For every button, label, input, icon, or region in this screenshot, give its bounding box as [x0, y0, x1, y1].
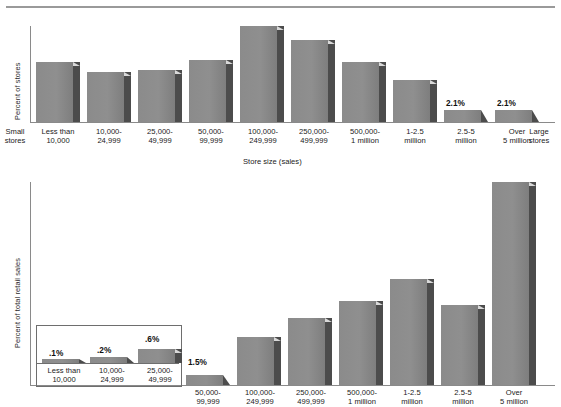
header-rule — [6, 6, 555, 8]
bar-front-face — [342, 62, 379, 122]
bar-front-face — [390, 279, 427, 385]
top-chart-left-endcap: Small stores — [0, 127, 30, 146]
bottom-bar-value: .6% — [145, 334, 159, 344]
bar-top-bevel — [529, 182, 536, 186]
bottom-chart-category-label: 250,000- 499,999 — [285, 388, 337, 407]
bottom-chart-y-axis — [30, 182, 31, 385]
top-bar[interactable] — [189, 56, 233, 122]
bar-front-face — [492, 182, 529, 385]
top-bar[interactable] — [393, 76, 437, 122]
top-bar[interactable] — [138, 66, 182, 122]
bar-front-face — [138, 70, 175, 122]
bottom-bar[interactable] — [90, 357, 134, 363]
bottom-bar[interactable] — [237, 333, 281, 385]
bottom-bar[interactable] — [441, 301, 485, 385]
bar-front-face — [90, 357, 127, 363]
bar-front-face — [237, 337, 274, 385]
bottom-bar[interactable] — [138, 345, 182, 363]
bar-top-bevel — [73, 62, 80, 66]
bar-top-bevel — [124, 72, 131, 76]
top-chart-x-axis-title: Store size (sales) — [243, 157, 302, 166]
bottom-bar[interactable] — [390, 275, 434, 385]
top-chart-category-label: 2.5-5 million — [441, 127, 491, 146]
bottom-bar-value: .1% — [49, 348, 63, 358]
top-chart-category-label: 100,000- 249,999 — [237, 127, 289, 146]
bottom-bar-value: .2% — [97, 345, 111, 355]
bar-top-bevel — [328, 40, 335, 44]
top-chart-y-axis-label: Percent of stores — [13, 62, 22, 120]
top-bar[interactable] — [291, 36, 335, 122]
bar-front-face — [288, 318, 325, 385]
top-bar[interactable] — [342, 58, 386, 122]
bottom-bar[interactable] — [288, 314, 332, 385]
top-chart-category-label: 500,000- 1 million — [339, 127, 391, 146]
top-chart-category-label: 50,000- 99,999 — [186, 127, 236, 146]
bar-front-face — [186, 375, 223, 385]
bar-top-bevel — [376, 301, 383, 305]
bar-top-bevel — [277, 26, 284, 30]
top-bar-value: 2.1% — [446, 98, 465, 108]
bar-front-face — [138, 349, 175, 363]
bottom-chart-category-label: 1-2.5 million — [387, 388, 437, 407]
top-chart-category-label: 25,000- 49,999 — [135, 127, 185, 146]
bar-front-face — [441, 305, 478, 385]
bar-side-face — [379, 62, 386, 122]
bar-top-bevel — [223, 375, 230, 385]
bar-side-face — [274, 337, 281, 385]
bottom-bar[interactable] — [492, 178, 536, 385]
bottom-chart-category-label: 50,000- 99,999 — [183, 388, 233, 407]
bar-front-face — [393, 80, 430, 122]
bottom-chart-category-label: 2.5-5 million — [438, 388, 488, 407]
bar-side-face — [175, 70, 182, 122]
top-chart-category-label: Less than 10,000 — [33, 127, 83, 146]
top-chart-category-label: 250,000- 499,999 — [288, 127, 340, 146]
bar-front-face — [189, 60, 226, 122]
bottom-chart-category-label: Less than 10,000 — [39, 366, 89, 385]
top-bar[interactable] — [495, 110, 539, 122]
top-chart-category-label: Over 5 million — [492, 127, 542, 146]
bottom-chart-category-label: Over 5 million — [489, 388, 539, 407]
bar-side-face — [73, 62, 80, 122]
bar-front-face — [495, 110, 532, 122]
bottom-chart-category-label: 25,000- 49,999 — [135, 366, 185, 385]
bottom-chart-y-axis-label: Percent of total retail sales — [13, 258, 22, 348]
bar-front-face — [36, 62, 73, 122]
bar-front-face — [240, 26, 277, 122]
bottom-bar[interactable] — [339, 297, 383, 385]
bar-top-bevel — [430, 80, 437, 84]
bar-side-face — [124, 72, 131, 122]
bar-front-face — [42, 359, 79, 363]
top-bar[interactable] — [36, 58, 80, 122]
bottom-chart-category-label: 100,000- 249,999 — [234, 388, 286, 407]
bottom-bar[interactable] — [186, 375, 230, 385]
bar-top-bevel — [175, 70, 182, 74]
top-chart-category-label: 10,000- 24,999 — [84, 127, 134, 146]
bar-side-face — [529, 182, 536, 385]
bar-front-face — [339, 301, 376, 385]
top-chart-x-axis — [30, 122, 555, 123]
bottom-bar[interactable] — [42, 359, 86, 363]
bar-side-face — [277, 26, 284, 122]
top-chart-category-label: 1-2.5 million — [390, 127, 440, 146]
bar-side-face — [376, 301, 383, 385]
bar-top-bevel — [478, 305, 485, 309]
top-bar[interactable] — [87, 68, 131, 122]
top-bar[interactable] — [444, 110, 488, 122]
top-bar[interactable] — [240, 22, 284, 122]
bar-side-face — [478, 305, 485, 385]
bar-side-face — [427, 279, 434, 385]
bar-side-face — [325, 318, 332, 385]
bar-top-bevel — [325, 318, 332, 322]
bar-top-bevel — [427, 279, 434, 283]
bar-top-bevel — [127, 357, 134, 363]
bar-front-face — [444, 110, 481, 122]
bar-top-bevel — [79, 359, 86, 363]
bar-side-face — [226, 60, 233, 122]
bar-top-bevel — [481, 110, 488, 122]
bar-top-bevel — [274, 337, 281, 341]
bottom-chart-category-label: 10,000- 24,999 — [87, 366, 137, 385]
bar-side-face — [328, 40, 335, 122]
bar-top-bevel — [532, 110, 539, 122]
bar-side-face — [430, 80, 437, 122]
